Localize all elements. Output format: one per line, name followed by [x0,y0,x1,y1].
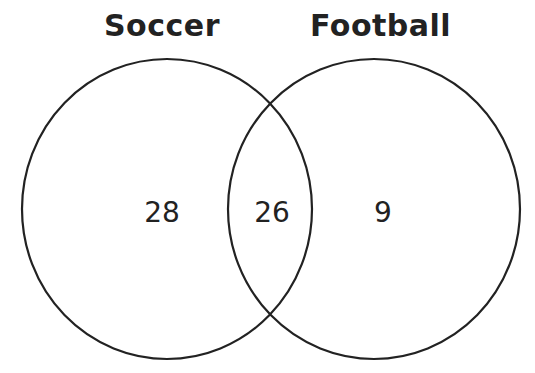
intersection-count: 26 [254,196,290,229]
football-only-count: 9 [374,196,392,229]
venn-diagram [0,0,535,373]
soccer-only-count: 28 [144,196,180,229]
